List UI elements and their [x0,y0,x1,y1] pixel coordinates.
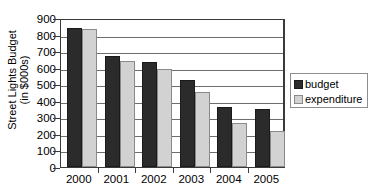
x-axis-tick-label: 2002 [134,172,174,186]
y-axis-title-line-2: (in $000s) [18,5,30,155]
legend-label-expenditure: expenditure [305,93,363,105]
y-axis-title: Street Lights Budget (in $000s) [6,5,30,155]
bar-budget-2002[interactable] [142,62,157,167]
bar-group [174,20,212,167]
chart-legend: budgetexpenditure [290,73,368,108]
x-axis-tick-label: 2005 [246,172,286,186]
bar-expenditure-2000[interactable] [82,29,97,167]
y-axis-tick-mark [53,69,60,70]
bar-group [249,20,287,167]
y-axis-tick-mark [53,168,60,169]
y-axis-tick-mark [53,102,60,103]
bar-budget-2005[interactable] [255,109,270,167]
y-axis-tick-mark [53,19,60,20]
x-axis-tick-mark [98,168,99,173]
bar-expenditure-2004[interactable] [232,123,247,167]
x-axis-tick-mark [210,168,211,173]
x-axis-tick-label: 2003 [171,172,211,186]
x-axis-tick-mark [135,168,136,173]
bar-budget-2004[interactable] [217,107,232,167]
plot-area [60,19,285,168]
x-axis-tick-labels: 200020012002200320042005 [60,172,285,192]
x-axis-tick-mark [173,168,174,173]
bars-layer [61,20,283,167]
bar-budget-2001[interactable] [105,56,120,167]
bar-group [211,20,249,167]
legend-swatch-expenditure [294,95,303,104]
bar-group [99,20,137,167]
x-axis-tick-mark [248,168,249,173]
bar-expenditure-2003[interactable] [195,92,210,167]
bar-budget-2000[interactable] [67,28,82,167]
y-axis-tick-mark [53,151,60,152]
y-axis-tick-mark [53,85,60,86]
x-axis-tick-label: 2000 [59,172,99,186]
legend-label-budget: budget [305,78,339,90]
bar-expenditure-2005[interactable] [270,131,285,167]
legend-item-expenditure[interactable]: expenditure [294,92,365,106]
bar-group [136,20,174,167]
x-axis-tick-label: 2001 [96,172,136,186]
bar-expenditure-2002[interactable] [157,69,172,167]
legend-item-budget[interactable]: budget [294,77,365,91]
bar-budget-2003[interactable] [180,80,195,167]
x-axis-tick-label: 2004 [209,172,249,186]
bar-expenditure-2001[interactable] [120,61,135,167]
y-axis-title-line-1: Street Lights Budget [6,5,18,155]
legend-swatch-budget [294,80,303,89]
y-axis-tick-mark [53,135,60,136]
y-axis-tick-mark [53,36,60,37]
y-axis-tick-mark [53,52,60,53]
bar-group [61,20,99,167]
y-axis-tick-mark [53,118,60,119]
bar-chart: Street Lights Budget (in $000s) 90080070… [0,0,371,195]
